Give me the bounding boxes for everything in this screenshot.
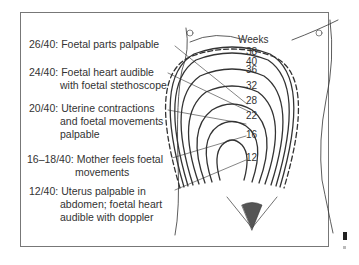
week-mark-28: 28 xyxy=(246,95,257,106)
cropped-caption-fragment-2 xyxy=(343,246,346,249)
week-mark-16: 16 xyxy=(246,129,257,140)
week-mark-36: 36 xyxy=(246,64,257,75)
week-mark-32: 32 xyxy=(246,80,257,91)
annotation-24-weeks: 24/40: Foetal heart audible with foetal … xyxy=(29,66,167,92)
annotation-26-weeks: 26/40: Foetal parts palpable xyxy=(29,38,159,51)
annotation-16-18-weeks: 16–18/40: Mother feels foetal movements xyxy=(27,153,163,179)
week-mark-12: 12 xyxy=(246,152,257,163)
annotation-20-weeks: 20/40: Uterine contractions and foetal m… xyxy=(29,102,163,141)
cropped-caption-fragment xyxy=(343,232,347,240)
weeks-title: Weeks xyxy=(238,34,268,45)
week-mark-22: 22 xyxy=(246,110,257,121)
annotation-12-weeks: 12/40: Uterus palpable in abdomen; foeta… xyxy=(29,185,162,224)
